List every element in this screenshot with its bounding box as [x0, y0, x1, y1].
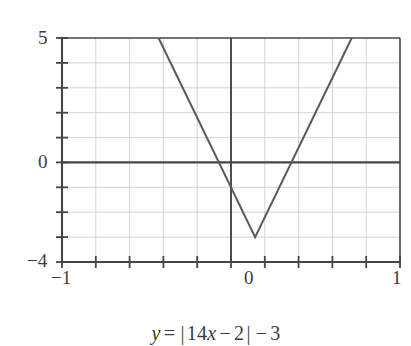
caption-minus-outer: −	[253, 322, 271, 344]
caption-y: y	[152, 322, 161, 344]
caption-outer-constant: 3	[270, 322, 280, 344]
y-axis-label-zero: 0	[38, 152, 48, 171]
caption-coefficient: 14	[187, 322, 208, 344]
caption-bar-close: |	[244, 322, 252, 344]
x-axis-label-zero: 0	[244, 268, 254, 287]
caption-inner-constant: 2	[234, 322, 244, 344]
plot-area	[0, 0, 411, 346]
figure-container: 5 0 −4 −1 0 1 y=|14x−2|−3	[0, 0, 411, 346]
caption-bar-open: |	[178, 322, 186, 344]
y-axis-label-min: −4	[27, 251, 47, 270]
x-axis-label-min: −1	[51, 268, 71, 287]
equation-caption: y=|14x−2|−3	[0, 299, 411, 346]
caption-equals: =	[161, 322, 179, 344]
caption-minus-inner: −	[216, 322, 234, 344]
x-axis-label-max: 1	[392, 268, 402, 287]
y-axis-label-max: 5	[38, 28, 48, 47]
